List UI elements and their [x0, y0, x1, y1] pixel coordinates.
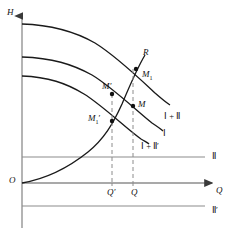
figure-container: H Q O Q′ Q R M1 M′ M M1′ Ⅰ + Ⅱ Ⅰ Ⅰ + Ⅱ′ …: [0, 0, 244, 234]
point-label-M-prime: M′: [102, 82, 111, 91]
point-label-M: M: [138, 100, 146, 109]
point-label-M1-prime-base: M: [88, 113, 96, 123]
pump-characteristic-diagram: [0, 0, 244, 234]
point-label-M1-prime-mark: ′: [99, 113, 101, 123]
marker-M1-prime: [110, 119, 114, 123]
curve-label-I: Ⅰ: [163, 129, 166, 138]
point-label-M1-sub: 1: [150, 75, 153, 81]
system-resistance-curve: [22, 55, 145, 183]
point-label-M1-prime: M1′: [88, 114, 100, 125]
tick-label-q-prime: Q′: [107, 188, 115, 197]
marker-M: [131, 104, 135, 108]
curve-I-plus-II: [22, 24, 170, 105]
tick-label-q: Q: [131, 188, 138, 197]
point-label-M1-base: M: [142, 69, 150, 79]
curve-label-I-plus-II: Ⅰ + Ⅱ: [164, 112, 180, 121]
line-label-II-prime: Ⅱ′: [212, 206, 218, 215]
axis-label-Q: Q: [216, 186, 223, 195]
axis-label-H: H: [7, 8, 14, 17]
marker-M-prime: [110, 92, 114, 96]
origin-label-O: O: [9, 176, 16, 185]
line-label-II: Ⅱ: [212, 152, 216, 161]
curve-label-I-plus-II-prime: Ⅰ + Ⅱ′: [141, 142, 159, 151]
point-label-M1: M1: [142, 70, 153, 81]
point-label-R: R: [143, 48, 149, 57]
marker-M1: [134, 67, 138, 71]
